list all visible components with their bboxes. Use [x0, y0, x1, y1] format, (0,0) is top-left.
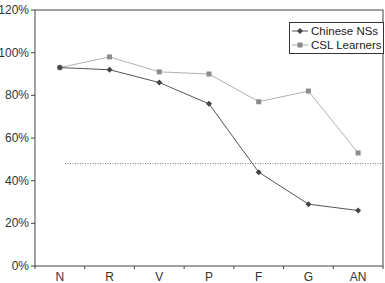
x-axis-ticks: NRVPFGAN [35, 266, 383, 283]
legend-item-chinese-nss: Chinese NSs [292, 24, 378, 38]
legend-item-csl-learners: CSL Learners [292, 38, 382, 52]
y-tick-label: 80% [5, 88, 29, 102]
square-marker-icon [292, 40, 308, 50]
data-point [356, 150, 361, 155]
x-tick-label: V [155, 270, 163, 283]
data-point [207, 72, 212, 77]
data-point [256, 99, 261, 104]
y-tick-label: 40% [5, 174, 29, 188]
y-tick-label: 20% [5, 216, 29, 230]
data-point [107, 67, 113, 73]
y-tick-label: 100% [0, 46, 29, 60]
x-tick-label: R [105, 270, 114, 283]
series-group [57, 54, 361, 213]
series-line [60, 68, 358, 211]
data-point [107, 54, 112, 59]
x-tick-label: G [304, 270, 313, 283]
data-point [157, 69, 162, 74]
legend: Chinese NSs CSL Learners [289, 22, 384, 54]
data-point [305, 201, 311, 207]
y-axis-ticks: 0%20%40%60%80%100%120% [0, 3, 35, 273]
diamond-marker-icon [292, 26, 308, 36]
data-point [156, 80, 162, 86]
legend-label: Chinese NSs [311, 24, 378, 38]
data-point [306, 89, 311, 94]
x-tick-label: P [205, 270, 213, 283]
data-point [355, 208, 361, 214]
y-tick-label: 120% [0, 3, 29, 17]
y-tick-label: 60% [5, 131, 29, 145]
x-tick-label: AN [350, 270, 367, 283]
y-tick-label: 0% [12, 259, 30, 273]
x-tick-label: F [255, 270, 262, 283]
legend-label: CSL Learners [311, 38, 382, 52]
x-tick-label: N [56, 270, 65, 283]
